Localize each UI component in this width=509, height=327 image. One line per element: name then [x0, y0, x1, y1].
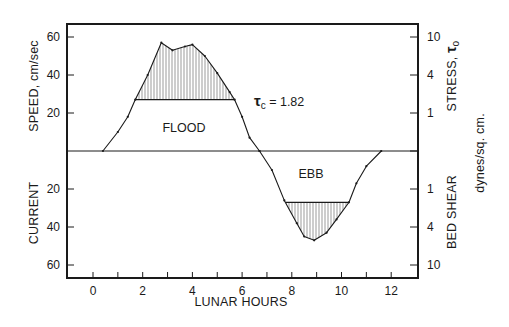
tau-c-annotation: τc = 1.82 — [254, 92, 304, 111]
data-point — [216, 72, 218, 74]
data-point — [204, 55, 206, 57]
left-axis-title-speed: SPEED, cm/sec — [27, 40, 41, 132]
x-tick-label: 12 — [385, 284, 399, 298]
data-point — [248, 137, 250, 139]
x-tick-label: 8 — [288, 284, 295, 298]
x-tick-label: 0 — [90, 284, 97, 298]
data-point — [147, 74, 149, 76]
stress-tick-label: 10 — [427, 258, 441, 272]
stress-tick-label: 1 — [427, 182, 434, 196]
stress-label: STRESS, — [445, 53, 459, 112]
stress-tick-label: 4 — [427, 220, 434, 234]
stress-tick-label: 4 — [427, 68, 434, 82]
data-point — [283, 199, 285, 201]
stress-tick-label: 10 — [427, 30, 441, 44]
flood-shaded-area — [135, 43, 234, 100]
left-axis-title-current: CURRENT — [27, 182, 41, 245]
data-point — [171, 49, 173, 51]
data-point — [258, 150, 260, 152]
data-point — [380, 150, 382, 152]
data-point — [313, 239, 315, 241]
y-tick-label: 20 — [47, 182, 61, 196]
data-point — [229, 91, 231, 93]
y-tick-label: 60 — [47, 258, 61, 272]
data-point — [325, 232, 327, 234]
stress-tick-label: 1 — [427, 106, 434, 120]
y-tick-label: 60 — [47, 30, 61, 44]
data-point — [303, 235, 305, 237]
data-point — [184, 45, 186, 47]
hatched-region — [135, 43, 234, 100]
stress-subscript: o — [450, 40, 461, 46]
data-point — [355, 182, 357, 184]
y-tick-label: 20 — [47, 106, 61, 120]
data-point — [102, 150, 104, 152]
data-point — [160, 42, 162, 44]
tau-value: = 1.82 — [266, 95, 305, 109]
right-axis-units: dynes/sq. cm. — [473, 113, 487, 193]
flood-label: FLOOD — [162, 121, 205, 135]
right-axis-title-stress: STRESS, τo — [443, 40, 461, 111]
data-point — [134, 99, 136, 101]
ebb-label: EBB — [298, 167, 323, 181]
data-point — [241, 116, 243, 118]
data-point — [296, 222, 298, 224]
data-point — [234, 99, 236, 101]
data-point — [348, 201, 350, 203]
right-axis-title-bed-shear: BED SHEAR — [445, 175, 459, 249]
x-tick-label: 10 — [335, 284, 349, 298]
data-point — [365, 165, 367, 167]
data-point — [271, 169, 273, 171]
data-point — [191, 44, 193, 46]
data-point — [127, 116, 129, 118]
tidal-current-chart: 024681012 204060204060 14101410 FLOOD EB… — [0, 0, 509, 327]
x-tick-label: 2 — [139, 284, 146, 298]
ebb-shaded-area — [285, 202, 349, 240]
hatched-region — [285, 202, 349, 240]
right-axis-ticks: 14101410 — [410, 30, 441, 272]
data-point — [117, 131, 119, 133]
y-tick-label: 40 — [47, 220, 61, 234]
y-tick-label: 40 — [47, 68, 61, 82]
data-point — [335, 218, 337, 220]
x-axis-title: LUNAR HOURS — [194, 295, 287, 309]
